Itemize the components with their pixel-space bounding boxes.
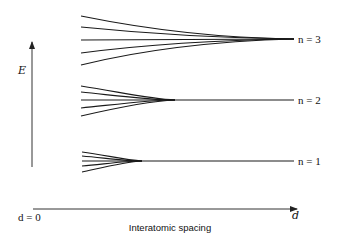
energy-axis-label: E bbox=[17, 64, 26, 77]
level-n3-label: n = 3 bbox=[298, 33, 321, 45]
energy-band-diagram: E n = 3 n = 2 n = 1 d = 0 d Interatomic … bbox=[0, 0, 338, 245]
level-n2 bbox=[81, 86, 294, 116]
level-n1 bbox=[82, 152, 294, 172]
level-n3 bbox=[81, 16, 294, 65]
level-n2-branch bbox=[81, 100, 175, 116]
spacing-axis-label: Interatomic spacing bbox=[129, 222, 211, 233]
spacing-axis-end-label: d bbox=[292, 209, 299, 222]
level-n2-label: n = 2 bbox=[298, 94, 321, 106]
level-n1-label: n = 1 bbox=[298, 155, 321, 167]
spacing-axis-start-label: d = 0 bbox=[18, 211, 41, 223]
